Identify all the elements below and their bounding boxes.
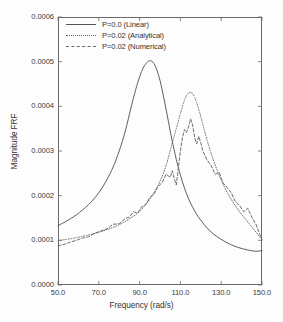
series-line — [58, 119, 262, 246]
series-line — [58, 92, 262, 240]
legend-item: P=0.0 (Linear) — [66, 19, 218, 29]
y-axis-title: Magnitude FRF — [10, 87, 19, 197]
x-axis-tick-labels: 50.070.090.0110.0130.0150.0 — [0, 288, 283, 302]
chart-legend: P=0.0 (Linear)P=0.02 (Analytical)P=0.02 … — [66, 19, 218, 51]
y-tick-label: 0.0005 — [8, 58, 54, 66]
x-tick-label: 150.0 — [242, 288, 282, 297]
y-tick-label: 0.0001 — [8, 236, 54, 244]
legend-item: P=0.02 (Analytical) — [66, 30, 218, 40]
legend-label: P=0.02 (Numerical) — [102, 42, 166, 51]
x-tick-label: 110.0 — [160, 288, 200, 297]
y-tick-label: 0.0006 — [8, 13, 54, 21]
legend-line-sample-icon — [66, 31, 96, 40]
series-line — [58, 61, 262, 252]
legend-item: P=0.02 (Numerical) — [66, 41, 218, 51]
frf-chart-figure: 0.00000.00010.00020.00030.00040.00050.00… — [0, 0, 283, 322]
x-tick-label: 130.0 — [201, 288, 241, 297]
legend-line-sample-icon — [66, 42, 96, 51]
x-tick-label: 50.0 — [38, 288, 78, 297]
x-axis-title: Frequency (rad/s) — [0, 301, 283, 310]
legend-line-sample-icon — [66, 20, 96, 29]
legend-label: P=0.0 (Linear) — [102, 20, 149, 29]
x-tick-label: 90.0 — [120, 288, 160, 297]
x-tick-label: 70.0 — [79, 288, 119, 297]
legend-label: P=0.02 (Analytical) — [102, 31, 164, 40]
